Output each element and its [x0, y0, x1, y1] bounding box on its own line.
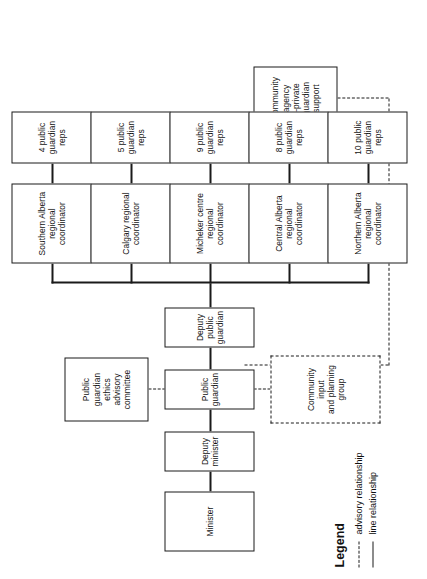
legend-title: Legend [332, 357, 346, 567]
node-regional-coordinator-0[interactable]: Southern Alberta regional coordinator [11, 183, 91, 263]
legend-item-advisory: advisory relationship [353, 357, 363, 567]
connector-spine-region-1 [130, 263, 132, 283]
node-public-guardian-reps-3[interactable]: 8 public guardian reps [248, 111, 328, 163]
node-public-guardian-reps-4[interactable]: 10 public guardian reps [327, 111, 407, 163]
legend: Legend advisory relationship line relati… [332, 357, 381, 567]
connector-deputy-to-spine [209, 283, 211, 307]
connector-spine-region-0 [51, 263, 53, 283]
node-deputy-minister[interactable]: Deputy minister [164, 431, 254, 471]
node-regional-coordinator-3[interactable]: Central Alberta regional coordinator [248, 183, 328, 263]
dashed-line-icon [358, 541, 359, 567]
node-minister[interactable]: Minister [164, 491, 254, 551]
connector-region-3-reps [288, 163, 290, 183]
legend-item-line-label: line relationship [367, 471, 377, 534]
org-chart-canvas: Minister Deputy minister Public guardian… [0, 0, 427, 579]
node-ethics-advisory-committee[interactable]: Public guardian ethics advisory committe… [64, 357, 148, 421]
node-regional-coordinator-2[interactable]: Micheker centre regional coordinator [169, 183, 249, 263]
connector-public-guardian-deputy-public-guardian [209, 347, 211, 369]
connector-region-2-reps [209, 163, 211, 183]
advisory-connector-agency-v2 [337, 97, 388, 98]
connector-spine-region-4 [367, 263, 369, 283]
connector-region-0-reps [51, 163, 53, 183]
connector-spine-region-3 [288, 263, 290, 283]
node-deputy-public-guardian[interactable]: Deputy public guardian [164, 307, 254, 347]
connector-spine-region-2 [209, 263, 211, 283]
node-public-guardian[interactable]: Public guardian [164, 369, 254, 409]
node-public-guardian-reps-0[interactable]: 4 public guardian reps [11, 111, 91, 163]
connector-region-1-reps [130, 163, 132, 183]
connector-minister-deputy-minister [209, 471, 211, 491]
solid-line-icon [372, 541, 373, 567]
legend-item-line: line relationship [367, 357, 377, 567]
node-regional-coordinator-1[interactable]: Calgary regional coordinator [90, 183, 170, 263]
connector-region-4-reps [367, 163, 369, 183]
legend-item-advisory-label: advisory relationship [353, 452, 363, 534]
node-public-guardian-reps-1[interactable]: 5 public guardian reps [90, 111, 170, 163]
node-public-guardian-reps-2[interactable]: 9 public guardian reps [169, 111, 249, 163]
node-regional-coordinator-4[interactable]: Northern Alberta regional coordinator [327, 183, 407, 263]
connector-deputy-minister-public-guardian [209, 409, 211, 431]
